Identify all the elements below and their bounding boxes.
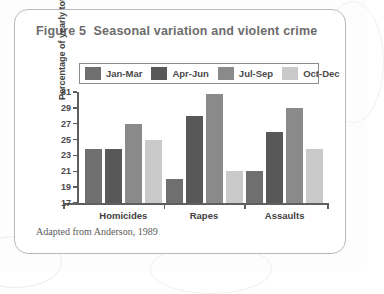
- y-axis-tick-label: 27: [61, 119, 71, 129]
- y-axis-tick-label: 25: [61, 135, 71, 145]
- y-axis-line: [77, 92, 79, 204]
- y-axis-title: Percentage of yearly total: [57, 4, 67, 100]
- bar-assaults-jan-mar: [246, 171, 263, 203]
- y-axis-tick-mark: [73, 171, 77, 173]
- y-axis-tick-label: 19: [61, 182, 71, 192]
- y-axis-tick-mark: [73, 155, 77, 157]
- bar-homicides-jul-sep: [125, 124, 142, 203]
- y-axis-tick: 25: [41, 135, 77, 145]
- y-axis-tick-label: 31: [61, 87, 71, 97]
- figure-caption: Adapted from Anderson, 1989: [36, 226, 158, 237]
- y-axis-tick-label: 23: [61, 150, 71, 160]
- chart-plot-area: Percentage of yearly total 1719212325272…: [63, 92, 331, 216]
- bar-assaults-oct-dec: [306, 149, 323, 203]
- y-axis-tick-mark: [73, 139, 77, 141]
- legend-label: Jul-Sep: [239, 68, 273, 79]
- x-axis-start-tick: [63, 204, 65, 209]
- legend-swatch: [151, 67, 167, 80]
- legend-label: Apr-Jun: [172, 68, 208, 79]
- legend-entry[interactable]: Apr-Jun: [151, 67, 208, 80]
- y-axis-tick-mark: [73, 91, 77, 93]
- figure-title: Figure 5 Seasonal variation and violent …: [36, 24, 318, 38]
- legend-swatch: [282, 67, 298, 80]
- bar-assaults-apr-jun: [266, 132, 283, 203]
- x-axis-end-tick: [327, 204, 329, 209]
- y-axis-tick: 31: [41, 87, 77, 97]
- x-axis-group-label: Homicides: [83, 210, 164, 221]
- y-axis-tick-label: 21: [61, 166, 71, 176]
- legend-entry[interactable]: Oct-Dec: [282, 67, 339, 80]
- bar-homicides-oct-dec: [145, 140, 162, 203]
- y-axis-tick-mark: [73, 186, 77, 188]
- legend-entry[interactable]: Jul-Sep: [218, 67, 273, 80]
- y-axis-tick: 27: [41, 119, 77, 129]
- legend-label: Jan-Mar: [106, 68, 142, 79]
- y-axis-tick-mark: [73, 123, 77, 125]
- bar-homicides-jan-mar: [85, 149, 102, 203]
- legend-label: Oct-Dec: [303, 68, 339, 79]
- bar-rapes-oct-dec: [226, 171, 243, 203]
- y-axis-tick-mark: [73, 107, 77, 109]
- bar-rapes-jul-sep: [206, 94, 223, 203]
- bar-rapes-apr-jun: [186, 116, 203, 203]
- bar-rapes-jan-mar: [166, 179, 183, 203]
- x-axis-line: [63, 203, 329, 205]
- x-axis-separator-tick: [164, 204, 166, 209]
- y-axis-tick: 19: [41, 182, 77, 192]
- y-axis-tick-label: 29: [61, 103, 71, 113]
- y-axis-tick: 23: [41, 150, 77, 160]
- y-axis-tick: 17: [41, 198, 77, 208]
- x-axis-separator-tick: [244, 204, 246, 209]
- x-axis-group-label: Rapes: [164, 210, 245, 221]
- bar-homicides-apr-jun: [105, 149, 122, 203]
- chart-legend: Jan-MarApr-JunJul-SepOct-Dec: [79, 63, 319, 84]
- legend-swatch: [218, 67, 234, 80]
- figure-card: Figure 5 Seasonal variation and violent …: [14, 9, 346, 254]
- y-axis-tick-mark: [73, 202, 77, 204]
- legend-entry[interactable]: Jan-Mar: [85, 67, 142, 80]
- bar-assaults-jul-sep: [286, 108, 303, 203]
- y-axis-tick: 21: [41, 166, 77, 176]
- legend-swatch: [85, 67, 101, 80]
- x-axis-group-label: Assaults: [244, 210, 325, 221]
- y-axis-tick: 29: [41, 103, 77, 113]
